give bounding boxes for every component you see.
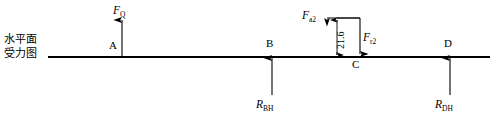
force-subscript-Fa2: a2 — [309, 15, 316, 24]
force-diagram: 水平面 受力图 — [0, 0, 499, 121]
dimension-label-21-6: 21.6 — [335, 32, 346, 50]
force-label-Fa2: Fa2 — [302, 9, 316, 21]
force-label-RDH: RDH — [435, 98, 453, 110]
force-subscript-Fr2: r2 — [370, 37, 376, 46]
point-label-A: A — [109, 39, 117, 51]
force-label-Fr2: Fr2 — [363, 31, 376, 43]
force-symbol-Fr2: F — [363, 31, 370, 43]
force-symbol-RBH: R — [256, 98, 263, 110]
point-label-C: C — [352, 58, 359, 70]
force-label-FQ: FQ — [113, 4, 125, 16]
point-label-B: B — [266, 37, 273, 49]
force-symbol-RDH: R — [435, 98, 442, 110]
force-label-RBH: RBH — [256, 98, 273, 110]
force-symbol-FQ: F — [113, 4, 120, 16]
force-subscript-FQ: Q — [120, 10, 125, 19]
force-subscript-RBH: BH — [263, 104, 273, 113]
point-label-D: D — [444, 37, 452, 49]
force-vector-layer — [0, 0, 499, 121]
force-subscript-RDH: DH — [442, 104, 453, 113]
force-symbol-Fa2: F — [302, 9, 309, 21]
